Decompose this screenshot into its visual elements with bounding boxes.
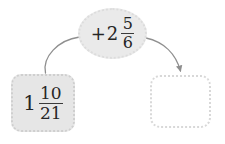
operator-denominator: 6 — [122, 34, 134, 51]
operator-numerator: 5 — [122, 16, 134, 33]
plus-sign-icon: + — [91, 25, 107, 43]
input-mixed-number: 1 10 21 — [23, 85, 62, 122]
input-whole-number: 1 — [23, 93, 39, 113]
input-numerator: 10 — [39, 85, 63, 103]
answer-input-box[interactable] — [150, 75, 211, 128]
input-fraction: 10 21 — [39, 85, 63, 122]
operator-fraction: 5 6 — [121, 16, 134, 51]
input-denominator: 21 — [39, 104, 63, 122]
operator-bubble: + 2 5 6 — [78, 8, 147, 59]
operator-whole-number: 2 — [107, 25, 121, 43]
input-value-box: 1 10 21 — [11, 74, 75, 132]
diagram-canvas: 1 10 21 + 2 5 6 — [0, 0, 225, 144]
operator-to-output-arrow — [146, 38, 181, 71]
operator-expression: + 2 5 6 — [91, 16, 135, 51]
input-to-operator-curve — [45, 37, 79, 73]
